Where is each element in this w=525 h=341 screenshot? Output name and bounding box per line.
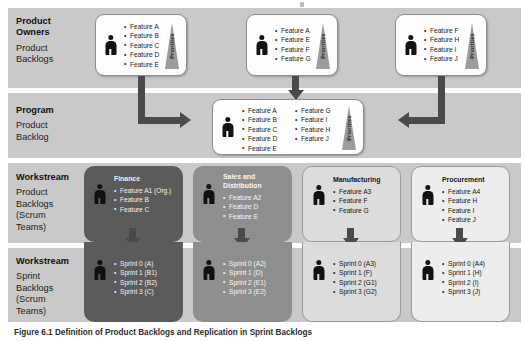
sprint-item: Sprint 2 (B2) xyxy=(114,278,157,287)
feature-item: Feature B xyxy=(114,195,171,204)
feature-list: Feature A2 Feature D Feature E xyxy=(223,193,261,221)
feature-item: Feature B xyxy=(124,31,159,40)
sprint-item: Sprint 2 (G1) xyxy=(333,278,377,287)
feature-item: Feature C xyxy=(242,125,277,134)
row-label-workstream-sprint: Workstream Sprint Backlogs (Scrum Teams) xyxy=(16,256,82,317)
feature-item: Feature H xyxy=(424,35,459,44)
workstream-title: Procurement xyxy=(442,176,485,185)
feature-item: Feature J xyxy=(295,134,331,143)
person-icon xyxy=(202,184,215,204)
row-heading-line1: Workstream xyxy=(16,256,69,266)
row-sublabel: Product Backlogs (Scrum Teams) xyxy=(16,187,82,233)
feature-item: Feature D xyxy=(124,50,159,59)
sprint-item: Sprint 1 (D) xyxy=(223,268,266,277)
decorative-mark xyxy=(300,2,304,7)
row-sublabel: Product Backlogs xyxy=(16,43,82,66)
workstream-sprint-backlog-sales[interactable]: Sprint 0 (A2) Sprint 1 (D) Sprint 2 (E1)… xyxy=(193,242,292,322)
feature-item: Feature E xyxy=(242,144,277,153)
feature-list: Feature A4 Feature H Feature I Feature J xyxy=(442,187,480,225)
feature-item: Feature F xyxy=(424,26,459,35)
feature-item: Feature B xyxy=(242,115,277,124)
feature-item: Feature E xyxy=(275,35,311,44)
person-icon xyxy=(93,184,106,204)
figure-canvas: Product Owners Product Backlogs Program … xyxy=(0,0,525,341)
arrow-po1-to-program xyxy=(138,76,208,128)
person-icon xyxy=(312,185,325,205)
feature-item: Feature I xyxy=(442,206,480,215)
person-icon xyxy=(404,35,417,55)
sprint-list: Sprint 0 (A3) Sprint 1 (F) Sprint 2 (G1)… xyxy=(333,259,377,297)
feature-item: Feature D xyxy=(242,134,277,143)
feature-list: Feature A3 Feature F Feature G xyxy=(333,187,371,215)
row-sublabel: Sprint Backlogs (Scrum Teams) xyxy=(16,271,82,317)
person-icon xyxy=(255,35,268,55)
sprint-list: Sprint 0 (A2) Sprint 1 (D) Sprint 2 (E1)… xyxy=(223,259,266,297)
workstream-title: Sales and Distribution xyxy=(223,173,283,190)
feature-item: Feature C xyxy=(114,205,171,214)
sprint-item: Sprint 3 (G2) xyxy=(333,287,377,296)
row-heading-line1: Product xyxy=(16,16,51,26)
feature-item: Feature F xyxy=(275,45,311,54)
workstream-sprint-backlog-finance[interactable]: Sprint 0 (A) Sprint 1 (B1) Sprint 2 (B2)… xyxy=(84,242,183,322)
feature-item: Feature A xyxy=(242,106,277,115)
sprint-item: Sprint 2 (E1) xyxy=(223,278,266,287)
workstream-sprint-backlog-manufacturing[interactable]: Sprint 0 (A3) Sprint 1 (F) Sprint 2 (G1)… xyxy=(302,242,401,322)
product-owner-backlog-card-2[interactable]: Feature A Feature E Feature F Feature G … xyxy=(246,14,338,76)
feature-item: Feature A4 xyxy=(442,187,480,196)
priorities-indicator: Priorities xyxy=(315,23,331,69)
row-label-product-owners: Product Owners Product Backlogs xyxy=(16,16,82,66)
person-icon xyxy=(421,185,434,205)
priorities-indicator: Priorities xyxy=(464,23,480,69)
program-product-backlog-card[interactable]: Feature A Feature B Feature C Feature D … xyxy=(212,99,364,155)
priorities-label: Priorities xyxy=(346,115,352,140)
feature-item: Feature D xyxy=(223,202,261,211)
feature-list: Feature A Feature E Feature F Feature G xyxy=(275,26,311,64)
person-icon xyxy=(312,260,325,280)
feature-item: Feature I xyxy=(295,115,331,124)
feature-item: Feature J xyxy=(424,54,459,63)
priorities-indicator: Priorities xyxy=(341,106,357,150)
feature-list-right: Feature G Feature I Feature H Feature J xyxy=(295,106,331,144)
person-icon xyxy=(104,35,117,55)
feature-item: Feature A1 (Org.) xyxy=(114,186,171,195)
sprint-item: Sprint 0 (A) xyxy=(114,259,157,268)
person-icon xyxy=(93,260,106,280)
feature-item: Feature E xyxy=(124,60,159,69)
feature-item: Feature H xyxy=(295,125,331,134)
priorities-label: Priorities xyxy=(320,33,326,58)
feature-item: Feature A3 xyxy=(333,187,371,196)
feature-item: Feature J xyxy=(442,215,480,224)
row-heading-line1: Workstream xyxy=(16,172,69,182)
feature-list: Feature A1 (Org.) Feature B Feature C xyxy=(114,186,171,214)
feature-item: Feature G xyxy=(295,106,331,115)
sprint-item: Sprint 1 (B1) xyxy=(114,268,157,277)
feature-list-left: Feature A Feature B Feature C Feature D … xyxy=(242,106,277,153)
sprint-list: Sprint 0 (A4) Sprint 1 (H) Sprint 2 (I) … xyxy=(442,259,485,297)
workstream-sprint-backlog-procurement[interactable]: Sprint 0 (A4) Sprint 1 (H) Sprint 2 (I) … xyxy=(411,242,510,322)
workstream-title: Manufacturing xyxy=(333,176,380,185)
sprint-item: Sprint 3 (C) xyxy=(114,287,157,296)
sprint-item: Sprint 0 (A2) xyxy=(223,259,266,268)
person-icon xyxy=(421,260,434,280)
feature-item: Feature C xyxy=(124,41,159,50)
feature-list: Feature F Feature H Feature I Feature J xyxy=(424,26,459,64)
product-owner-backlog-card-1[interactable]: Feature A Feature B Feature C Feature D … xyxy=(95,14,187,76)
feature-list: Feature A Feature B Feature C Feature D … xyxy=(124,22,159,69)
person-icon xyxy=(221,117,234,137)
priorities-label: Priorities xyxy=(469,33,475,58)
person-icon xyxy=(202,260,215,280)
row-label-program: Program Product Backlog xyxy=(16,105,82,143)
feature-item: Feature A2 xyxy=(223,193,261,202)
sprint-item: Sprint 1 (F) xyxy=(333,268,377,277)
priorities-indicator: Priorities xyxy=(164,23,180,69)
row-heading-line1: Program xyxy=(16,105,54,115)
priorities-label: Priorities xyxy=(169,33,175,58)
product-owner-backlog-card-3[interactable]: Feature F Feature H Feature I Feature J … xyxy=(395,14,487,76)
row-label-workstream-product: Workstream Product Backlogs (Scrum Teams… xyxy=(16,172,82,233)
sprint-item: Sprint 0 (A4) xyxy=(442,259,485,268)
feature-item: Feature A xyxy=(275,26,311,35)
feature-item: Feature G xyxy=(333,206,371,215)
feature-item: Feature G xyxy=(275,54,311,63)
workstream-title: Finance xyxy=(114,175,140,184)
feature-item: Feature A xyxy=(124,22,159,31)
